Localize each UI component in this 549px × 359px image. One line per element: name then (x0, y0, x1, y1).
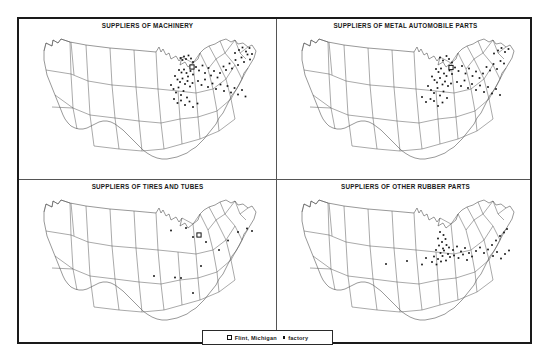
factory-dot (435, 68, 437, 70)
factory-dot (189, 70, 191, 72)
factory-dot (230, 92, 232, 94)
factory-dot (492, 63, 494, 65)
factory-dot (180, 100, 182, 102)
factory-dot (442, 234, 444, 236)
factory-dot (183, 69, 185, 71)
factory-dot (442, 91, 444, 93)
factory-dot (225, 69, 227, 71)
factory-dot (153, 275, 155, 277)
map-panel-tires-and-tubes[interactable]: SUPPLIERS OF TIRES AND TUBES (19, 180, 276, 340)
factory-dot (444, 81, 446, 83)
factory-dot (437, 238, 439, 240)
factory-dot (471, 83, 473, 85)
factory-dot (461, 65, 463, 67)
factory-dot (246, 54, 248, 56)
us-map-metal-automobile-parts (288, 29, 524, 175)
panel-title: SUPPLIERS OF OTHER RUBBER PARTS (277, 183, 534, 190)
factory-dot (421, 264, 423, 266)
factory-dot (439, 231, 441, 233)
factory-dot (181, 78, 183, 80)
factory-markers (153, 227, 253, 294)
factory-dot (215, 88, 217, 90)
factory-dot (449, 256, 451, 258)
factory-dot (508, 250, 510, 252)
factory-dot (187, 76, 189, 78)
factory-dot (219, 84, 221, 86)
factory-markers (385, 228, 510, 265)
us-map-tires-and-tubes (30, 190, 266, 336)
factory-dot (446, 97, 448, 99)
factory-dot (218, 249, 220, 251)
us-map-svg (288, 29, 524, 175)
factory-dot (238, 49, 240, 51)
factory-dot (204, 72, 206, 74)
factory-dot (433, 79, 435, 81)
flint-michigan-marker (189, 65, 193, 69)
map-panel-metal-automobile-parts[interactable]: SUPPLIERS OF METAL AUTOMOBILE PARTS (277, 19, 534, 179)
legend-label: factory (288, 335, 308, 341)
factory-dot (240, 57, 242, 59)
factory-dot (176, 102, 178, 104)
factory-dot (450, 83, 452, 85)
factory-dot (241, 89, 243, 91)
factory-dot (237, 231, 239, 233)
factory-dot (196, 103, 198, 105)
factory-dot (464, 73, 466, 75)
factory-dot (506, 228, 508, 230)
factory-dot (496, 68, 498, 70)
factory-dot (175, 92, 177, 94)
factory-dot (429, 98, 431, 100)
factory-dot (204, 79, 206, 81)
factory-dot (177, 87, 179, 89)
factory-dot (456, 81, 458, 83)
factory-dot (180, 277, 182, 279)
factory-dot (431, 261, 433, 263)
factory-dot (452, 249, 454, 251)
factory-dot (456, 246, 458, 248)
factory-dot (233, 87, 235, 89)
factory-dot (191, 82, 193, 84)
factory-dot (192, 74, 194, 76)
factory-dot (433, 256, 435, 258)
factory-dot (195, 66, 197, 68)
factory-dot (496, 251, 498, 253)
factory-dot (437, 105, 439, 107)
factory-dot (190, 58, 192, 60)
factory-dot (249, 59, 251, 61)
factory-dot (460, 85, 462, 87)
factory-dot (172, 88, 174, 90)
factory-dot (183, 56, 185, 58)
factory-dot (186, 97, 188, 99)
map-panel-machinery[interactable]: SUPPLIERS OF MACHINERY (19, 19, 276, 179)
factory-dot (453, 255, 455, 257)
factory-dot (246, 228, 248, 230)
factory-dot (192, 106, 194, 108)
factory-dot (441, 84, 443, 86)
factory-dot (185, 72, 187, 74)
factory-dot (451, 62, 453, 64)
factory-dot (180, 94, 182, 96)
factory-dot (485, 66, 487, 68)
factory-dot (170, 84, 172, 86)
factory-dot (192, 292, 194, 294)
factory-dot (487, 86, 489, 88)
factory-dot (442, 248, 444, 250)
factory-dot (439, 252, 441, 254)
factory-dot (241, 47, 243, 49)
factory-dot (181, 59, 183, 61)
factory-dot (213, 70, 215, 72)
factory-dot (467, 87, 469, 89)
factory-dot (482, 73, 484, 75)
factory-dot (234, 52, 236, 54)
flint-michigan-marker (196, 233, 200, 237)
factory-dot (445, 260, 447, 262)
factory-dot (185, 227, 187, 229)
factory-dot (182, 90, 184, 92)
panel-title: SUPPLIERS OF MACHINERY (19, 22, 276, 29)
factory-dot (439, 57, 441, 59)
factory-dot (170, 230, 172, 232)
factory-dot (491, 244, 493, 246)
map-panel-other-rubber-parts[interactable]: SUPPLIERS OF OTHER RUBBER PARTS (277, 180, 534, 340)
factory-dot (425, 257, 427, 259)
factory-dot (442, 60, 444, 62)
